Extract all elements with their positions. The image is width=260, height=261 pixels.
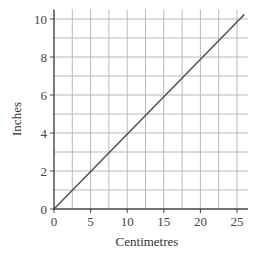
y-tick-label: 10 (34, 12, 47, 27)
y-axis-label: Inches (9, 102, 24, 136)
x-tick-label: 5 (87, 214, 94, 229)
x-axis-label: Centimetres (116, 234, 179, 249)
x-tick-label: 15 (157, 214, 170, 229)
y-tick-label: 6 (41, 88, 48, 103)
y-tick-label: 4 (41, 126, 48, 141)
x-tick-label: 0 (51, 214, 58, 229)
series-line (54, 14, 244, 209)
y-tick-label: 8 (41, 50, 48, 65)
x-tick-label: 25 (231, 214, 244, 229)
chart: 05101520250246810 Centimetres Inches (0, 0, 260, 261)
x-tick-label: 10 (121, 214, 134, 229)
data-series (54, 14, 244, 209)
x-tick-label: 20 (194, 214, 207, 229)
y-tick-label: 0 (41, 202, 48, 217)
y-tick-label: 2 (41, 164, 48, 179)
